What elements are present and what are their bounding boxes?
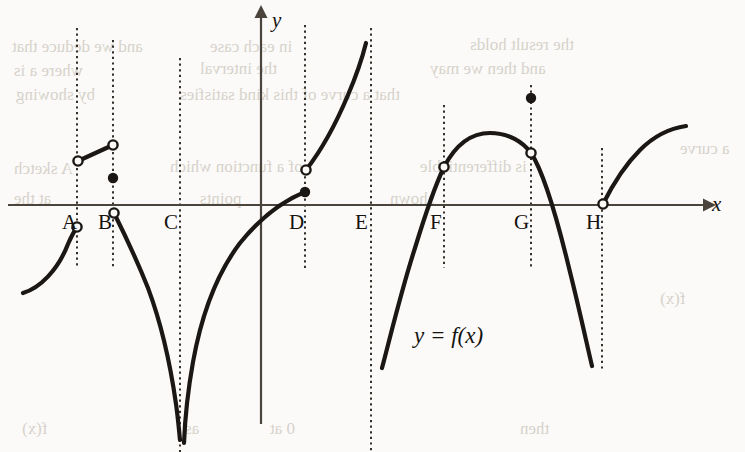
x-point-label-F: F [430, 212, 442, 233]
open-circle-marker [598, 199, 607, 208]
open-circle-marker [108, 140, 117, 149]
y-axis-label: y [272, 10, 281, 31]
filled-dot-marker [108, 173, 118, 183]
x-axis-label: x [712, 194, 721, 215]
open-circle-marker [301, 165, 310, 174]
x-point-label-D: D [289, 212, 304, 233]
curve-branch-D-to-E [306, 43, 366, 170]
x-point-label-E: E [355, 212, 368, 233]
dashed-guide-lines [77, 25, 602, 452]
x-point-label-B: B [98, 212, 112, 233]
open-circle-marker [526, 148, 535, 157]
x-point-label-H: H [586, 212, 601, 233]
x-point-label-G: G [514, 212, 529, 233]
function-equation-label: y = f(x) [414, 324, 483, 347]
curve-branch-C-asymptote-to-D [184, 192, 305, 443]
x-point-label-A: A [62, 212, 77, 233]
function-graph-figure: and we deduce thatin each casethe result… [0, 0, 745, 452]
filled-dot-marker [526, 93, 536, 103]
function-curve-segments [23, 43, 686, 443]
filled-dot-marker [300, 187, 310, 197]
curve-branch-left-of-A [23, 227, 77, 293]
curve-branch-B-to-C-asymptote [114, 213, 180, 440]
open-circle-marker [73, 156, 82, 165]
curve-branch-right-of-H [603, 126, 686, 204]
y-axis-arrowhead [255, 5, 268, 18]
open-circle-marker [439, 162, 448, 171]
x-point-label-C: C [164, 212, 178, 233]
